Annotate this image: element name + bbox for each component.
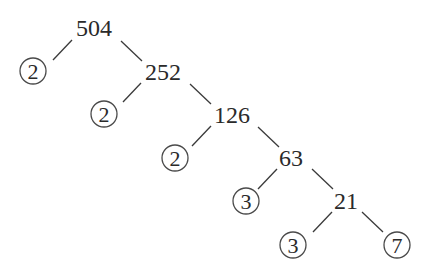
prime-leaf-2b: 2 — [91, 101, 117, 127]
prime-label: 2 — [99, 102, 110, 127]
composite-nodes: 504 252 126 63 21 — [76, 15, 358, 214]
node-63: 63 — [279, 145, 303, 171]
prime-label: 3 — [241, 189, 252, 214]
prime-label: 2 — [28, 59, 39, 84]
prime-leaf-2a: 2 — [20, 58, 46, 84]
prime-leaf-7: 7 — [384, 232, 410, 258]
edge-504-2 — [53, 40, 72, 60]
prime-label: 7 — [392, 233, 403, 258]
edge-252-126 — [190, 84, 211, 104]
node-252: 252 — [145, 59, 181, 85]
prime-leaf-3b: 3 — [280, 232, 306, 258]
prime-leaf-2c: 2 — [162, 145, 188, 171]
prime-label: 2 — [170, 146, 181, 171]
edge-63-3 — [258, 169, 277, 189]
edge-126-63 — [258, 127, 279, 147]
edge-504-252 — [121, 41, 142, 61]
edge-126-2 — [192, 126, 211, 146]
edge-21-3 — [313, 212, 332, 232]
factor-tree-diagram: 504 252 126 63 21 2 2 2 3 3 7 — [0, 0, 433, 267]
prime-label: 3 — [288, 233, 299, 258]
prime-leaves: 2 2 2 3 3 7 — [20, 58, 410, 258]
edge-21-7 — [362, 212, 383, 232]
prime-leaf-3a: 3 — [233, 188, 259, 214]
node-504: 504 — [76, 15, 112, 41]
edge-252-2 — [123, 83, 141, 102]
edge-63-21 — [312, 169, 333, 189]
node-126: 126 — [214, 102, 250, 128]
node-21: 21 — [334, 188, 358, 214]
